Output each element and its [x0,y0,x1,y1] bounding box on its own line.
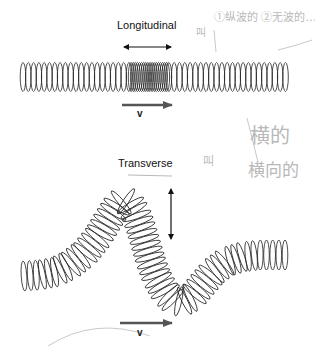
handwritten-note-middle-prefix: 叫 [203,152,214,168]
wave-diagram: Longitudinal v Transverse v 叫 ①纵波的 ②无波的…… [0,0,315,346]
handwritten-note-middle-line1: 横的 [250,120,290,149]
longitudinal-label: Longitudinal [117,19,176,31]
longitudinal-velocity-label: v [137,108,143,119]
transverse-spring [20,187,288,316]
transverse-velocity-label: v [137,327,143,338]
longitudinal-spring [20,63,288,92]
handwritten-note-prefix: 叫 [196,24,206,39]
transverse-underline [128,175,172,176]
handwritten-note-top: ①纵波的 ②无波的… [214,8,315,24]
handwritten-note-middle-line2: 横向的 [248,156,299,181]
transverse-label: Transverse [118,157,173,169]
